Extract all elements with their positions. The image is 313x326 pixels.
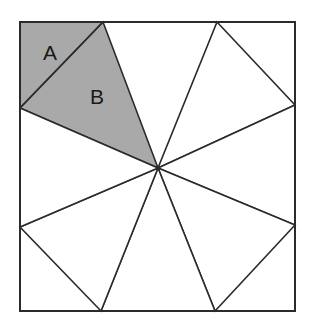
label-b: B xyxy=(90,85,104,108)
center-point-marker xyxy=(156,166,160,170)
geometry-figure: A B xyxy=(0,0,313,326)
label-a: A xyxy=(43,41,57,64)
figure-canvas: A B xyxy=(0,0,313,326)
